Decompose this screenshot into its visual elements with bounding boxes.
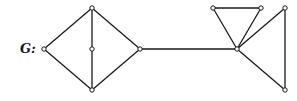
edge-v4-v5 bbox=[92, 49, 140, 90]
vertex-v10 bbox=[283, 88, 287, 92]
vertex-v3 bbox=[90, 47, 94, 51]
edge-v10-v6 bbox=[237, 49, 285, 90]
edge-v1-v2 bbox=[44, 8, 92, 49]
edge-v6-v9 bbox=[237, 8, 285, 49]
vertex-v5 bbox=[138, 47, 142, 51]
vertex-v9 bbox=[283, 6, 287, 10]
vertex-v8 bbox=[259, 6, 263, 10]
edge-v6-v7 bbox=[213, 8, 237, 49]
edge-v8-v6 bbox=[237, 8, 261, 49]
edge-v1-v4 bbox=[44, 49, 92, 90]
vertex-v2 bbox=[90, 6, 94, 10]
vertex-v4 bbox=[90, 88, 94, 92]
edge-v2-v5 bbox=[92, 8, 140, 49]
graph-edges bbox=[44, 8, 285, 90]
vertex-v1 bbox=[42, 47, 46, 51]
vertex-v6 bbox=[235, 47, 239, 51]
graph-canvas bbox=[0, 0, 297, 101]
vertex-v7 bbox=[211, 6, 215, 10]
